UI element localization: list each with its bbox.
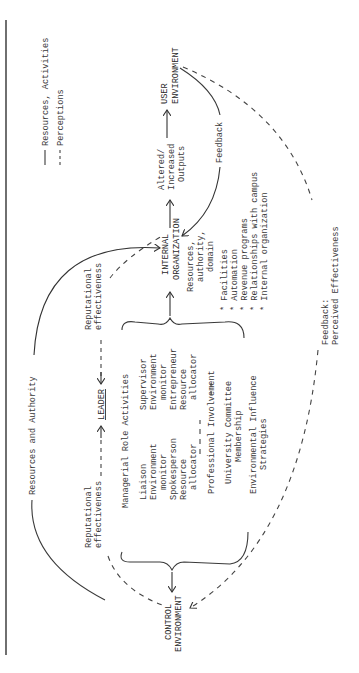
- svg-text:ENVIRONMENT: ENVIRONMENT: [174, 595, 184, 652]
- legend: Resources, Activities Perceptions: [41, 38, 66, 166]
- brace-top: [122, 318, 244, 338]
- svg-text:INTERNAL: INTERNAL: [161, 234, 171, 275]
- legend-dashed-label: Perceptions: [56, 89, 66, 146]
- svg-text:CONTROL: CONTROL: [164, 604, 174, 640]
- diagram-canvas: Resources, Activities Perceptions USER E…: [0, 0, 359, 673]
- svg-text:Reputational: Reputational: [84, 486, 94, 548]
- svg-text:Environment: Environment: [149, 353, 159, 410]
- perceived-feedback-top: [183, 67, 312, 200]
- svg-text:ENVIRONMENT: ENVIRONMENT: [171, 47, 181, 104]
- rep-eff-left-dash: [108, 556, 165, 606]
- svg-text:Strategies: Strategies: [259, 418, 269, 470]
- list-item: * Relationships with campus: [250, 172, 260, 311]
- svg-text:Feedback:: Feedback:: [321, 299, 331, 345]
- svg-text:Altered/: Altered/: [157, 149, 167, 190]
- internal-items-list: * Facilities * Automation * Revenue prog…: [220, 172, 270, 311]
- list-item: * Internal organization: [260, 192, 270, 311]
- node-user-environment: USER ENVIRONMENT: [160, 47, 181, 104]
- node-internal-organization: INTERNAL ORGANIZATION: [161, 218, 182, 280]
- label-resources-domain: Resources, authority, domain: [186, 230, 216, 292]
- svg-text:allocator: allocator: [189, 444, 199, 490]
- svg-text:monitor: monitor: [159, 454, 169, 490]
- brace-bottom: [121, 532, 248, 570]
- svg-text:Membership: Membership: [234, 410, 244, 462]
- node-control-environment: CONTROL ENVIRONMENT: [164, 595, 184, 652]
- svg-text:allocator: allocator: [189, 354, 199, 400]
- label-perceived-feedback: Feedback: Perceived Effectiveness: [321, 226, 341, 345]
- svg-text:effectiveness: effectiveness: [94, 263, 104, 330]
- rep-eff-right-dash: [110, 236, 162, 278]
- legend-solid-label: Resources, Activities: [41, 38, 51, 146]
- svg-text:Spokesperson: Spokesperson: [169, 438, 179, 500]
- svg-text:Environmental Influence: Environmental Influence: [249, 375, 259, 494]
- svg-text:effectiveness: effectiveness: [94, 481, 104, 548]
- svg-text:Professional Involvement: Professional Involvement: [207, 370, 217, 494]
- list-item: * Revenue programs: [240, 218, 250, 311]
- label-rep-eff-left: Reputational effectiveness: [84, 481, 104, 548]
- svg-text:Resource: Resource: [179, 369, 189, 410]
- svg-text:Environment: Environment: [149, 443, 159, 500]
- svg-text:domain: domain: [206, 241, 216, 272]
- svg-text:monitor: monitor: [159, 364, 169, 400]
- managerial-activities: Managerial Role Activities Liaison Envir…: [121, 348, 269, 508]
- svg-text:Reputational: Reputational: [84, 268, 94, 330]
- label-rep-eff-right: Reputational effectiveness: [84, 263, 104, 330]
- svg-text:Outputs: Outputs: [177, 146, 187, 182]
- managerial-title: Managerial Role Activities: [121, 374, 131, 508]
- svg-text:University Committee: University Committee: [224, 381, 234, 484]
- svg-text:authority,: authority,: [196, 230, 206, 282]
- svg-text:Resource: Resource: [179, 459, 189, 500]
- label-feedback: Feedback: [215, 122, 225, 163]
- svg-text:ORGANIZATION: ORGANIZATION: [172, 218, 182, 280]
- list-item: * Automation: [230, 249, 240, 311]
- svg-text:Perceived Effectiveness: Perceived Effectiveness: [331, 226, 341, 345]
- list-item: * Facilities: [220, 249, 230, 311]
- svg-text:Liaison: Liaison: [139, 464, 149, 500]
- label-resources-authority: Resources and Authority: [28, 376, 38, 495]
- node-leader: LEADER: [97, 389, 107, 420]
- svg-text:Supervisor: Supervisor: [139, 358, 149, 410]
- feedback-arrow-bottom: [182, 167, 220, 236]
- svg-text:USER: USER: [160, 83, 170, 104]
- label-outputs: Altered/ Increased Outputs: [157, 144, 187, 190]
- svg-text:Increased: Increased: [167, 144, 177, 190]
- svg-text:Resources,: Resources,: [186, 240, 196, 292]
- feedback-line-top: [180, 68, 220, 115]
- svg-text:Entrepreneur: Entrepreneur: [169, 348, 179, 410]
